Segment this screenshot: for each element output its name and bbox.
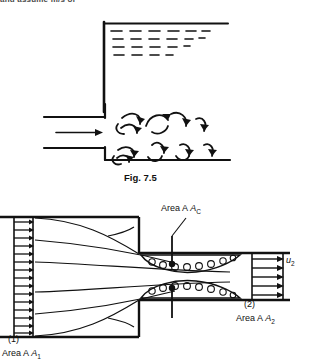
figure-caption-upper: Fig. 7.5 bbox=[124, 172, 157, 183]
eddy-arrows-upper-row bbox=[121, 113, 205, 133]
separation-eddy-swirls-upper bbox=[149, 255, 236, 270]
inlet-flow-arrow-head bbox=[95, 129, 103, 136]
label-station-2: (2) bbox=[244, 299, 255, 309]
lower-figure-svg bbox=[0, 200, 316, 350]
figure-page: and assume m/s of bbox=[0, 0, 316, 360]
label-area-1: Area A A1 bbox=[2, 348, 41, 360]
inlet-velocity-arrows bbox=[14, 222, 30, 333]
label-area-c-text: Area A bbox=[161, 203, 188, 213]
liquid-hatch-row-3 bbox=[113, 46, 190, 47]
label-area-1-text: Area A bbox=[2, 348, 29, 358]
area-c-leader-line bbox=[172, 218, 186, 236]
label-velocity-2: u2 bbox=[286, 255, 295, 267]
eddy-arrow-heads-upper bbox=[133, 114, 209, 133]
label-velocity-2-subscript: 2 bbox=[291, 260, 295, 267]
vena-contracta-dot-upper bbox=[169, 261, 175, 267]
label-area-c-subscript: C bbox=[196, 208, 201, 215]
label-area-2-text: Area A bbox=[236, 313, 263, 323]
vena-contracta-dot-lower bbox=[169, 285, 175, 291]
label-area-1-subscript: 1 bbox=[37, 353, 41, 360]
upper-figure-svg bbox=[0, 0, 316, 185]
outlet-velocity-arrows bbox=[252, 259, 279, 295]
liquid-hatch-row-2 bbox=[113, 38, 205, 39]
label-area-2: Area A A2 bbox=[236, 313, 275, 325]
label-station-1: (1) bbox=[8, 334, 19, 344]
separation-eddy-swirls-lower bbox=[149, 283, 236, 298]
label-area-c: Area A AC bbox=[161, 203, 201, 215]
streamline-stubs bbox=[108, 227, 134, 327]
streamlines-upper bbox=[35, 218, 230, 272]
label-area-2-subscript: 2 bbox=[271, 318, 275, 325]
